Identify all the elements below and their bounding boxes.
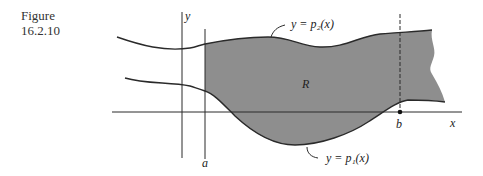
lower-curve-label: y = p₁(x) <box>325 151 369 165</box>
point-b <box>398 110 403 115</box>
y-axis-label: y <box>184 9 191 23</box>
region-diagram: y x a b R y = p₂(x) y = p₁(x) <box>0 0 483 176</box>
a-label: a <box>202 156 208 170</box>
b-label: b <box>396 117 402 131</box>
upper-curve-label: y = p₂(x) <box>290 17 334 31</box>
region-r-label: R <box>301 77 310 91</box>
x-axis-label: x <box>449 116 456 130</box>
upper-curve-pointer <box>271 25 285 37</box>
lower-curve-pointer <box>307 147 318 158</box>
